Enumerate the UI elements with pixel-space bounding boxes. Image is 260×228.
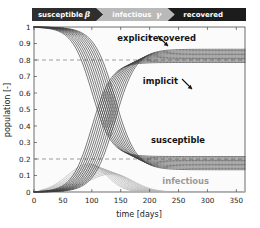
annotation-explicit: explicit	[117, 33, 152, 43]
sir-model-figure: susceptibleβinfectiousγrecovered 0501001…	[0, 0, 260, 228]
y-tick-label: 0	[26, 188, 31, 197]
compartment-flow-banner: susceptibleβinfectiousγrecovered	[32, 8, 246, 21]
x-tick-label: 150	[114, 196, 128, 205]
x-tick-label: 50	[58, 196, 68, 205]
y-tick-label: 0.9	[19, 39, 31, 48]
banner-stage-label-infectious: infectious	[112, 11, 151, 19]
x-tick-label: 300	[201, 196, 215, 205]
y-axis-title: population [-]	[3, 83, 12, 137]
banner-stage-label-recovered: recovered	[183, 11, 223, 19]
banner-rate-symbol-infectious: γ	[156, 9, 162, 19]
y-tick-label: 0.8	[19, 56, 31, 65]
y-tick-label: 0.6	[19, 89, 31, 98]
y-tick-label: 0.1	[19, 171, 30, 180]
y-tick-label: 1	[26, 23, 31, 32]
x-tick-label: 200	[143, 196, 157, 205]
annotation-recovered: recovered	[149, 33, 196, 43]
banner-stage-label-susceptible: susceptible	[38, 11, 83, 19]
y-tick-label: 0.7	[19, 72, 30, 81]
x-tick-label: 0	[32, 196, 37, 205]
x-axis-title: time [days]	[116, 210, 162, 219]
y-tick-label: 0.4	[19, 122, 31, 131]
banner-rate-symbol-susceptible: β	[84, 9, 91, 19]
y-tick-label: 0.2	[19, 155, 30, 164]
x-tick-label: 100	[85, 196, 99, 205]
plot-area: 05010015020025030035000.10.20.30.40.50.6…	[19, 23, 245, 205]
y-tick-label: 0.5	[19, 105, 30, 114]
annotation-susceptible: susceptible	[151, 135, 205, 145]
annotation-implicit: implicit	[143, 76, 178, 86]
x-tick-label: 350	[229, 196, 243, 205]
annotation-infectious: infectious	[162, 176, 209, 186]
y-tick-label: 0.3	[19, 138, 30, 147]
x-tick-label: 250	[172, 196, 186, 205]
